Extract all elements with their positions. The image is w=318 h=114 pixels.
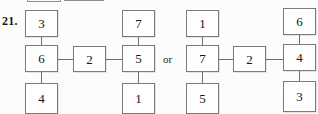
edge-R-top-left-to-R-mid-left (202, 37, 203, 45)
edge-R-top-right-to-R-mid-right (299, 35, 300, 44)
node-label: 7 (199, 52, 206, 65)
edge-R-mid-right-to-R-bottom-right (299, 71, 300, 81)
edge-R-mid-center-to-R-mid-right (266, 59, 283, 60)
node-box-R-mid-left: 7 (186, 45, 219, 72)
node-box-R-bottom-left: 5 (186, 83, 219, 114)
right-diagram: 1672453 (0, 0, 318, 114)
node-box-R-mid-center: 2 (233, 46, 266, 72)
node-box-R-top-right: 6 (283, 8, 316, 35)
node-label: 4 (296, 51, 303, 64)
node-box-R-bottom-right: 3 (283, 81, 316, 112)
node-label: 1 (199, 17, 206, 30)
edge-R-mid-left-to-R-bottom-left (202, 72, 203, 83)
node-label: 2 (246, 53, 253, 66)
node-label: 5 (199, 92, 206, 105)
node-box-R-top-left: 1 (186, 10, 219, 37)
figure-canvas: 21. or 37625411672453 (0, 0, 318, 114)
node-label: 3 (296, 90, 303, 103)
edge-R-mid-left-to-R-mid-center (219, 59, 233, 60)
node-box-R-mid-right: 4 (283, 44, 316, 71)
node-label: 6 (296, 15, 303, 28)
